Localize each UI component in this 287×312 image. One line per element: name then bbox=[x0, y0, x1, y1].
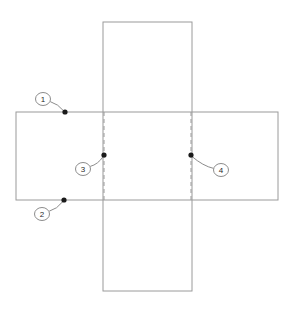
callout-3-leader-line bbox=[90, 156, 103, 166]
callout-4-leader-line bbox=[192, 156, 214, 168]
callout-2-label: 2 bbox=[40, 210, 45, 219]
callout-3-point-dot[interactable] bbox=[101, 152, 106, 157]
callout-3-label: 3 bbox=[81, 165, 86, 174]
horizontal-panel-rect bbox=[16, 112, 278, 200]
diagram-canvas: 1234 bbox=[0, 0, 287, 312]
callout-1-leader-line bbox=[50, 102, 64, 112]
callout-2[interactable]: 2 bbox=[35, 197, 67, 220]
callout-3[interactable]: 3 bbox=[76, 152, 107, 175]
vertical-panel-rect bbox=[103, 22, 192, 291]
callout-1-label: 1 bbox=[41, 95, 46, 104]
callout-1-point-dot[interactable] bbox=[62, 109, 67, 114]
callout-1[interactable]: 1 bbox=[36, 93, 68, 115]
callout-2-leader-line bbox=[49, 201, 63, 211]
callout-4[interactable]: 4 bbox=[188, 152, 228, 176]
cross-net-diagram: 1234 bbox=[0, 0, 287, 312]
callout-4-point-dot[interactable] bbox=[188, 152, 193, 157]
callout-2-point-dot[interactable] bbox=[61, 197, 66, 202]
callout-4-label: 4 bbox=[219, 166, 224, 175]
